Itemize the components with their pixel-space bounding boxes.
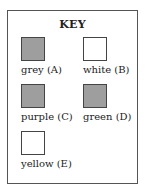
key-item-yellow: yellow (E) <box>21 131 81 169</box>
purple-swatch <box>21 84 45 108</box>
key-item-label: white (B) <box>83 64 143 75</box>
key-item-white: white (B) <box>83 37 143 75</box>
key-item-grey: grey (A) <box>21 37 81 75</box>
key-item-label: yellow (E) <box>21 158 81 169</box>
key-item-label: purple (C) <box>21 111 81 122</box>
yellow-swatch <box>21 131 45 155</box>
key-item-label: grey (A) <box>21 64 81 75</box>
grey-swatch <box>21 37 45 61</box>
key-item-green: green (D) <box>83 84 143 122</box>
key-item-label: green (D) <box>83 111 143 122</box>
green-swatch <box>83 84 107 108</box>
key-item-purple: purple (C) <box>21 84 81 122</box>
key-title: KEY <box>8 18 137 31</box>
white-swatch <box>83 37 107 61</box>
key-legend: KEY grey (A) white (B) purple (C) green … <box>7 10 138 184</box>
